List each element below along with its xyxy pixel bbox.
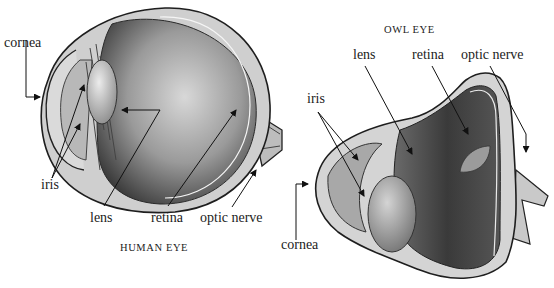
human-retina-label: retina <box>151 211 183 225</box>
illustration <box>0 0 554 288</box>
owl-cornea-label: cornea <box>281 238 318 252</box>
human-optic-nerve-label: optic nerve <box>200 211 263 225</box>
owl-lens-label: lens <box>353 48 376 62</box>
human-eye-title: HUMAN EYE <box>120 243 188 254</box>
human-eye-drawing <box>26 8 282 213</box>
owl-optic-nerve-label: optic nerve <box>461 48 524 62</box>
eye-comparison-diagram: cornea iris lens retina optic nerve HUMA… <box>0 0 554 288</box>
owl-retina-label: retina <box>412 48 444 62</box>
human-lens-label: lens <box>90 211 113 225</box>
human-iris-label: iris <box>41 178 59 192</box>
owl-eye-title: OWL EYE <box>384 25 435 36</box>
owl-iris-label: iris <box>307 92 325 106</box>
human-cornea-label: cornea <box>4 36 41 50</box>
owl-eye-drawing <box>296 66 548 278</box>
